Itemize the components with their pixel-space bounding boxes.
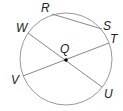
label-U: U	[104, 87, 113, 101]
chord-RS	[52, 14, 102, 29]
label-R: R	[41, 1, 50, 15]
circle-diagram: R S T U V W Q	[0, 0, 123, 111]
label-Q: Q	[60, 42, 69, 56]
label-T: T	[110, 32, 119, 46]
label-W: W	[16, 21, 29, 35]
label-S: S	[103, 19, 111, 33]
label-V: V	[11, 73, 20, 87]
center-point	[64, 58, 68, 62]
